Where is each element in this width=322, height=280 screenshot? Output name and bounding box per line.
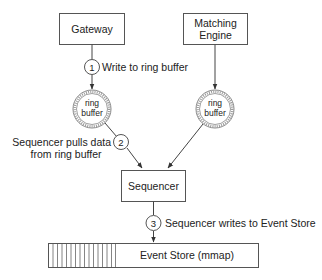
step-3: 3 Sequencer writes to Event Store <box>146 216 316 231</box>
matching-engine-label-line2: Engine <box>199 29 232 41</box>
event-store-label: Event Store (mmap) <box>140 249 234 261</box>
step-1-number: 1 <box>89 62 94 73</box>
matching-engine-label-line1: Matching <box>194 17 237 29</box>
step-2: 2 Sequencer pulls data from ring buffer <box>12 135 128 161</box>
ring-buffer-right-line2: buffer <box>204 108 226 118</box>
step-3-number: 3 <box>151 218 156 229</box>
event-store-node: Event Store (mmap) <box>49 244 259 268</box>
ring-buffer-left: ring buffer <box>73 90 111 128</box>
step-1: 1 Write to ring buffer <box>85 60 189 75</box>
ring-buffer-left-line2: buffer <box>81 108 103 118</box>
sequencer-node: Sequencer <box>122 171 186 202</box>
step-1-text: Write to ring buffer <box>102 61 188 73</box>
ring-buffer-right-line1: ring <box>208 98 222 108</box>
event-sourcing-diagram: Gateway Matching Engine 1 Write to ring … <box>0 0 322 280</box>
step-2-text-line1: Sequencer pulls data <box>12 136 111 148</box>
ring-buffer-left-line1: ring <box>85 98 99 108</box>
ringbuffer-right-to-sequencer-arrow <box>168 124 203 168</box>
step-2-number: 2 <box>118 137 123 148</box>
ring-buffer-right: ring buffer <box>196 90 234 128</box>
gateway-node: Gateway <box>60 14 125 45</box>
sequencer-label: Sequencer <box>128 180 179 192</box>
ringbuffer-left-to-sequencer-arrow <box>127 148 142 168</box>
step-3-text: Sequencer writes to Event Store <box>165 217 316 229</box>
matching-engine-node: Matching Engine <box>184 14 248 45</box>
gateway-label: Gateway <box>71 23 113 35</box>
step-2-text-line2: from ring buffer <box>30 148 102 160</box>
